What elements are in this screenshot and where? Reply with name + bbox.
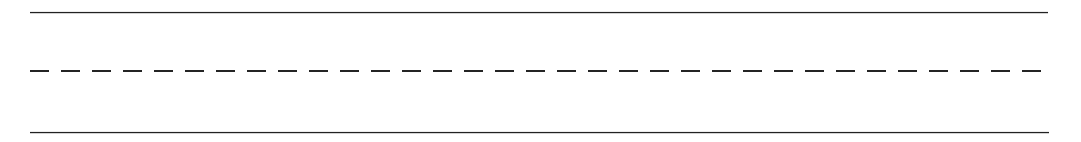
bottom-solid-rule xyxy=(30,132,1049,133)
top-solid-rule xyxy=(30,12,1048,13)
separator-canvas xyxy=(0,0,1081,142)
middle-dashed-rule xyxy=(30,70,1044,73)
